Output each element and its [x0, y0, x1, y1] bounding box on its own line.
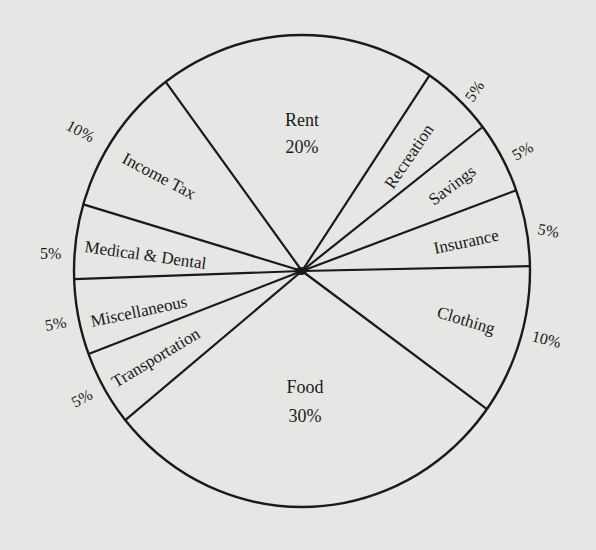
boundary-clothing-food: [302, 271, 487, 409]
label-food: Food: [286, 377, 323, 397]
label-rent: Rent: [285, 110, 319, 130]
boundary-insurance-clothing: [302, 266, 530, 271]
pct-transportation: 5%: [68, 386, 95, 411]
label-insurance: Insurance: [432, 226, 501, 258]
pct-income-tax: 10%: [64, 117, 98, 146]
boundary-rent-recreation: [302, 75, 430, 271]
label-miscellaneous: Miscellaneous: [89, 292, 189, 331]
pct-medical-dental: 5%: [40, 245, 61, 262]
boundary-food-transportation: [125, 271, 302, 420]
value-food: 30%: [289, 406, 322, 426]
label-recreation: Recreation: [381, 120, 438, 192]
pct-savings: 5%: [509, 138, 536, 163]
value-rent: 20%: [286, 137, 319, 157]
boundary-miscellaneous-medical: [74, 271, 302, 279]
pct-clothing: 10%: [530, 327, 563, 351]
pct-insurance: 5%: [536, 220, 560, 240]
label-income-tax: Income Tax: [119, 149, 199, 204]
pct-miscellaneous: 5%: [44, 314, 68, 334]
center-hub: [295, 267, 307, 275]
pie-chart: Rent 20% Recreation Savings Insurance Cl…: [0, 0, 596, 550]
label-savings: Savings: [425, 162, 479, 210]
label-transportation: Transportation: [108, 324, 203, 392]
pct-recreation: 5%: [461, 77, 487, 104]
boundary-rent-income-tax: [166, 82, 302, 271]
label-medical-dental: Medical & Dental: [83, 237, 207, 273]
label-clothing: Clothing: [435, 303, 498, 339]
